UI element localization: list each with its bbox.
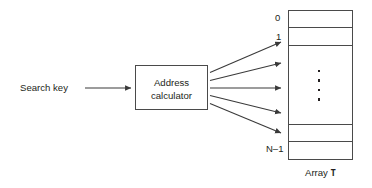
- address-calculator-label-line1: Address: [136, 77, 207, 88]
- vertical-ellipsis-icon: [316, 70, 322, 108]
- array-caption-symbol: T: [331, 168, 336, 178]
- arrow-fanout-1: [210, 42, 281, 73]
- array-caption-prefix: Array: [305, 167, 328, 178]
- arrow-fanout-2: [210, 63, 281, 81]
- address-calculator-label-line2: calculator: [136, 90, 207, 101]
- array-index-label-0: 0: [275, 13, 280, 23]
- array-row-divider: [289, 27, 352, 28]
- address-calculator-box: Address calculator: [135, 65, 208, 110]
- arrow-fanout-4: [210, 96, 281, 114]
- diagram-canvas: Search key Address calculator 0 1 N–1: [0, 0, 372, 188]
- array-index-label-last: N–1: [266, 144, 283, 154]
- array-row-divider: [289, 124, 352, 125]
- array-row-divider: [289, 141, 352, 142]
- arrow-fanout-5: [210, 104, 281, 134]
- array-caption: Array T: [288, 167, 353, 178]
- array-row-divider: [289, 45, 352, 46]
- array-index-label-1: 1: [276, 32, 281, 42]
